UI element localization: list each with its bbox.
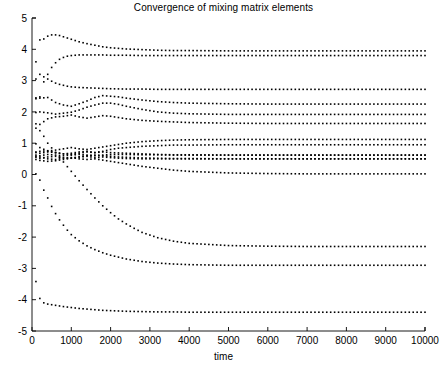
data-point (137, 141, 139, 143)
data-point (393, 264, 395, 266)
data-point (377, 311, 379, 313)
data-point (161, 311, 163, 313)
data-point (255, 139, 257, 141)
data-point (271, 154, 273, 156)
data-point (263, 173, 265, 175)
data-point (157, 262, 159, 264)
data-point (192, 139, 194, 141)
data-point (55, 82, 57, 84)
data-point (353, 123, 355, 125)
data-point (161, 154, 163, 156)
data-point (279, 55, 281, 57)
data-point (373, 144, 375, 146)
data-point (236, 158, 238, 160)
data-point (129, 48, 131, 50)
data-point (43, 189, 45, 191)
data-point (263, 154, 265, 156)
data-point (82, 243, 84, 245)
data-point (291, 158, 293, 160)
data-point (114, 152, 116, 154)
data-point (149, 145, 151, 147)
data-point (314, 154, 316, 156)
data-point (310, 139, 312, 141)
data-point (338, 246, 340, 248)
data-point (110, 161, 112, 163)
data-point (397, 139, 399, 141)
data-point (310, 246, 312, 248)
data-point (90, 54, 92, 56)
data-point (412, 89, 414, 91)
data-point (295, 123, 297, 125)
data-point (102, 88, 104, 90)
data-point (287, 246, 289, 248)
data-point (357, 154, 359, 156)
data-point (326, 114, 328, 116)
data-point (51, 113, 53, 115)
data-point (59, 103, 61, 105)
data-point (346, 158, 348, 160)
data-series (35, 154, 426, 162)
data-point (385, 89, 387, 91)
data-point (424, 158, 426, 160)
data-point (263, 114, 265, 116)
data-point (224, 245, 226, 247)
data-point (126, 223, 128, 225)
data-point (51, 34, 53, 36)
data-point (173, 240, 175, 242)
data-point (165, 168, 167, 170)
data-point (338, 158, 340, 160)
data-point (408, 264, 410, 266)
data-point (200, 55, 202, 57)
data-point (350, 173, 352, 175)
data-point (420, 139, 422, 141)
data-point (82, 158, 84, 160)
data-point (94, 87, 96, 89)
data-point (377, 154, 379, 156)
data-point (196, 171, 198, 173)
data-series (35, 114, 426, 125)
data-point (255, 50, 257, 52)
data-point (212, 154, 214, 156)
data-point (393, 144, 395, 146)
data-point (236, 264, 238, 266)
data-point (157, 55, 159, 57)
data-point (310, 154, 312, 156)
data-point (106, 160, 108, 162)
data-point (295, 173, 297, 175)
data-point (377, 246, 379, 248)
data-point (82, 148, 84, 150)
data-point (263, 245, 265, 247)
data-point (357, 144, 359, 146)
data-point (228, 50, 230, 52)
data-point (212, 122, 214, 124)
data-point (389, 173, 391, 175)
scatter-plot: 0100020003000400050006000700080009000100… (0, 0, 447, 372)
data-point (181, 264, 183, 266)
data-point (224, 55, 226, 57)
data-point (381, 264, 383, 266)
data-point (145, 145, 147, 147)
data-point (71, 154, 73, 156)
data-point (334, 139, 336, 141)
data-point (216, 154, 218, 156)
data-point (169, 121, 171, 123)
data-point (149, 110, 151, 112)
data-point (283, 123, 285, 125)
data-point (259, 55, 261, 57)
data-point (243, 158, 245, 160)
data-point (243, 264, 245, 266)
data-point (373, 114, 375, 116)
data-point (181, 102, 183, 104)
data-point (82, 154, 84, 156)
data-point (133, 142, 135, 144)
data-point (114, 148, 116, 150)
data-point (71, 152, 73, 154)
data-point (247, 245, 249, 247)
data-point (302, 311, 304, 313)
data-point (133, 164, 135, 166)
data-point (228, 154, 230, 156)
data-point (141, 157, 143, 159)
data-point (137, 108, 139, 110)
data-point (216, 244, 218, 246)
data-point (342, 89, 344, 91)
